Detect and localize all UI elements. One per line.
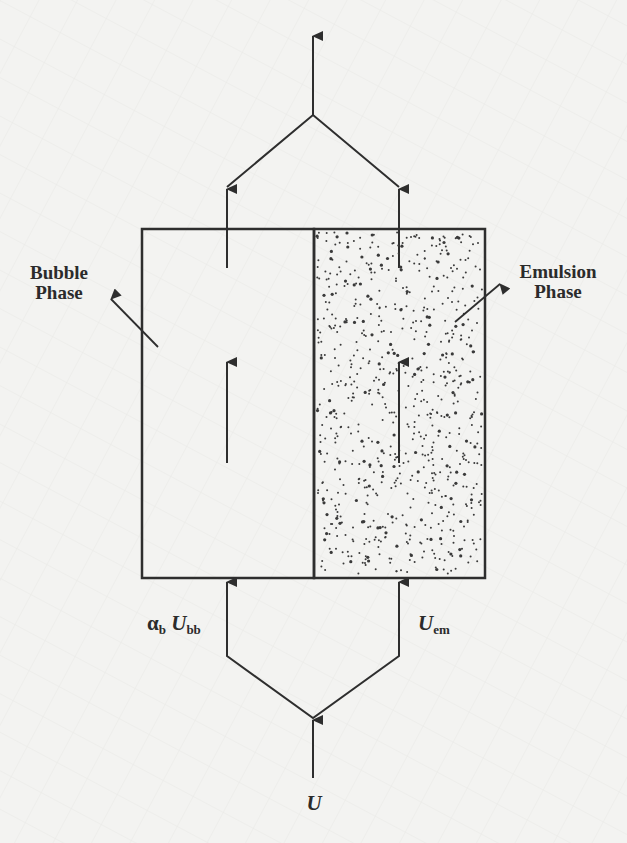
alpha-subscript: b (159, 622, 166, 637)
u-bb-subscript: bb (186, 622, 200, 637)
u-inlet-symbol: U (306, 791, 321, 815)
emulsion-phase-label-line2: Phase (506, 282, 610, 302)
two-phase-flow-diagram (0, 0, 627, 843)
bubble-phase-label-line1: Bubble (18, 263, 100, 283)
alpha-symbol: α (147, 611, 159, 635)
u-em-subscript: em (433, 622, 450, 637)
u-bb-symbol: U (171, 611, 186, 635)
bubble-phase-label-line2: Phase (18, 283, 100, 303)
bubble-phase-label: Bubble Phase (18, 263, 100, 303)
emulsion-inflow-label: Uem (418, 612, 450, 637)
emulsion-phase-label-line1: Emulsion (506, 262, 610, 282)
bubble-inflow-label: αb Ubb (147, 612, 201, 637)
u-em-symbol: U (418, 611, 433, 635)
emulsion-phase-label: Emulsion Phase (506, 262, 610, 302)
inlet-velocity-label: U (303, 792, 325, 814)
